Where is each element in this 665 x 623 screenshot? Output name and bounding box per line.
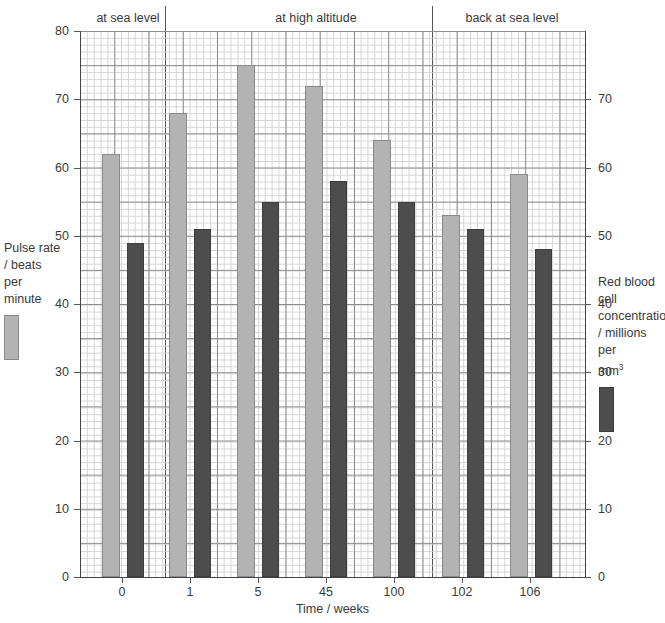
bar-rbc-6 [535, 249, 552, 577]
x-tick-0 [122, 577, 123, 583]
bar-pulse-5 [442, 215, 460, 577]
y-tick-right-60 [585, 168, 591, 169]
y-tick-left-0 [74, 577, 80, 578]
legend-pulse-line-1: Pulse rate [4, 240, 76, 257]
x-tick-5 [258, 577, 259, 583]
legend-rbc-line-2: concentration [598, 308, 665, 325]
legend-rbc-line-1: Red blood cell [598, 274, 665, 308]
y-tick-left-70 [74, 99, 80, 100]
y-label-left-80: 80 [55, 25, 69, 38]
bar-rbc-5 [467, 229, 484, 577]
y-tick-left-10 [74, 509, 80, 510]
legend-pulse-rate: Pulse rate / beats per minute [4, 240, 76, 360]
bar-pulse-0 [102, 154, 120, 577]
x-label-102: 102 [432, 586, 492, 599]
legend-red-blood-cell: Red blood cell concentration / millions … [598, 274, 665, 432]
y-tick-right-30 [585, 372, 591, 373]
plot-area [80, 31, 585, 577]
bar-rbc-3 [330, 181, 347, 577]
bar-rbc-2 [262, 202, 279, 577]
y-tick-left-80 [74, 31, 80, 32]
x-label-1: 1 [160, 586, 220, 599]
y-label-left-20: 20 [55, 435, 69, 448]
bar-pulse-1 [169, 113, 187, 577]
y-label-left-30: 30 [55, 366, 69, 379]
x-label-5: 5 [228, 586, 288, 599]
x-label-100: 100 [364, 586, 424, 599]
y-tick-right-70 [585, 99, 591, 100]
y-tick-right-40 [585, 304, 591, 305]
y-label-left-60: 60 [55, 162, 69, 175]
y-label-left-10: 10 [55, 503, 69, 516]
x-tick-1 [190, 577, 191, 583]
y-label-left-0: 0 [62, 571, 69, 584]
y-tick-left-20 [74, 441, 80, 442]
y-tick-left-60 [74, 168, 80, 169]
legend-rbc-superscript: 3 [619, 362, 624, 372]
x-axis-line [80, 577, 586, 578]
y-label-left-70: 70 [55, 93, 69, 106]
legend-pulse-line-2: / beats [4, 257, 76, 274]
legend-pulse-line-4: minute [4, 291, 76, 308]
x-axis-title: Time / weeks [0, 603, 665, 616]
y-tick-right-20 [585, 441, 591, 442]
bar-rbc-4 [398, 202, 415, 577]
x-tick-45 [326, 577, 327, 583]
y-tick-right-10 [585, 509, 591, 510]
bar-pulse-2 [237, 65, 255, 577]
y-tick-right-0 [585, 577, 591, 578]
x-tick-106 [530, 577, 531, 583]
x-tick-102 [462, 577, 463, 583]
x-label-45: 45 [296, 586, 356, 599]
y-label-right-60: 60 [598, 162, 612, 175]
y-label-right-50: 50 [598, 230, 612, 243]
x-tick-100 [394, 577, 395, 583]
figure: at sea level at high altitude back at se… [0, 0, 665, 623]
y-tick-left-30 [74, 372, 80, 373]
y-label-right-20: 20 [598, 435, 612, 448]
legend-swatch-red-blood-cell [599, 387, 614, 432]
y-label-right-70: 70 [598, 93, 612, 106]
section-label-back-at-sea-level: back at sea level [432, 12, 592, 25]
y-axis-left-line [80, 31, 81, 578]
bar-pulse-3 [305, 86, 323, 577]
legend-rbc-unit: mm [598, 364, 619, 378]
x-label-0: 0 [92, 586, 152, 599]
y-tick-left-50 [74, 236, 80, 237]
section-label-at-high-altitude: at high altitude [196, 12, 436, 25]
bar-rbc-0 [127, 243, 144, 577]
bar-pulse-4 [373, 140, 391, 577]
legend-rbc-line-3: / millions per [598, 325, 665, 359]
y-label-right-0: 0 [598, 571, 605, 584]
section-label-at-sea-level: at sea level [78, 12, 178, 25]
legend-pulse-line-3: per [4, 274, 76, 291]
legend-swatch-pulse-rate [4, 315, 19, 360]
y-tick-right-50 [585, 236, 591, 237]
bar-rbc-1 [194, 229, 211, 577]
x-label-106: 106 [500, 586, 560, 599]
y-label-right-10: 10 [598, 503, 612, 516]
bar-pulse-6 [510, 174, 528, 577]
legend-rbc-line-4: mm3 [598, 359, 665, 380]
